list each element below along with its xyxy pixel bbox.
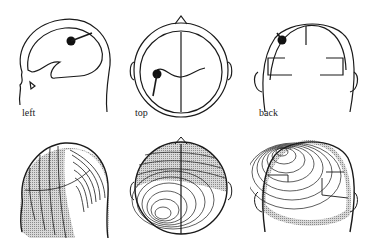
back-view-potential-map [250,120,375,245]
back-view-head-diagram [250,0,375,120]
view-label-left: left [22,107,35,118]
sulcus-right [320,58,343,75]
dipole-orientation [71,33,92,41]
brain-outline [270,25,346,80]
head-outline [19,19,110,112]
view-label-back: back [259,107,278,118]
ear-canal-marker [30,82,35,89]
head-outline [263,24,354,112]
brain-outline [28,28,103,78]
left-view-potential-map [0,120,125,245]
view-label-top: top [135,107,148,118]
left-view-head-diagram [0,0,125,120]
ear-left [255,72,262,92]
top-view-head-diagram [125,0,250,120]
top-view-potential-map [125,120,250,245]
